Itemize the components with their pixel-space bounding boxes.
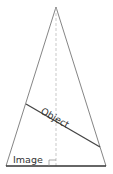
triangle-right-edge — [56, 7, 106, 166]
right-angle-marker — [49, 160, 56, 166]
image-label: Image — [13, 154, 43, 165]
triangle-left-edge — [6, 7, 56, 166]
object-label: Object — [39, 105, 72, 130]
focal-triangle-diagram: Object Image — [0, 0, 113, 174]
